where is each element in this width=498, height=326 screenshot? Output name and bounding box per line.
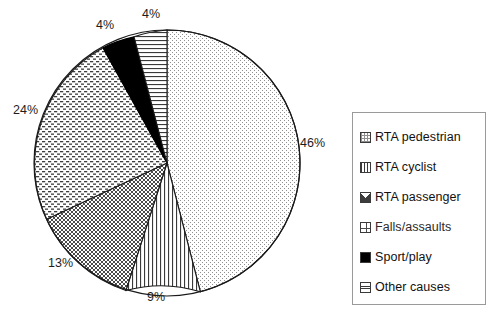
dotted-square-swatch bbox=[360, 132, 371, 143]
slice-label-falls-assaults: 13% bbox=[48, 256, 73, 270]
legend-label-falls-assaults: Falls/assaults bbox=[375, 220, 451, 234]
legend-label-rta-passenger: RTA passenger bbox=[375, 190, 461, 204]
solid-black-square-swatch bbox=[360, 252, 371, 263]
pie-slices bbox=[34, 30, 300, 296]
legend-label-sport-play: Sport/play bbox=[375, 250, 432, 264]
slice-label-other-causes: 4% bbox=[142, 7, 160, 21]
pie-chart-figure: 46% 9% 13% 24% 4% 4% RTA pedestrian RTA … bbox=[0, 0, 498, 326]
slice-label-rta-passenger: 24% bbox=[13, 103, 38, 117]
crosshatch-square-swatch bbox=[360, 222, 371, 233]
legend-item-sport-play[interactable]: Sport/play bbox=[353, 242, 485, 272]
legend-item-rta-passenger[interactable]: RTA passenger bbox=[353, 182, 485, 212]
chart-legend: RTA pedestrian RTA cyclist RTA passenger… bbox=[352, 112, 486, 305]
legend-label-rta-cyclist: RTA cyclist bbox=[375, 160, 436, 174]
legend-label-other-causes: Other causes bbox=[375, 280, 450, 294]
horizontal-lines-square-swatch bbox=[360, 282, 371, 293]
legend-item-falls-assaults[interactable]: Falls/assaults bbox=[353, 212, 485, 242]
legend-item-rta-pedestrian[interactable]: RTA pedestrian bbox=[353, 122, 485, 152]
legend-item-other-causes[interactable]: Other causes bbox=[353, 272, 485, 302]
slice-label-sport-play: 4% bbox=[96, 18, 114, 32]
dashed-rows-square-swatch bbox=[360, 192, 371, 203]
legend-label-rta-pedestrian: RTA pedestrian bbox=[375, 130, 461, 144]
vertical-lines-square-swatch bbox=[360, 162, 371, 173]
legend-item-rta-cyclist[interactable]: RTA cyclist bbox=[353, 152, 485, 182]
slice-label-rta-pedestrian: 46% bbox=[300, 136, 325, 150]
slice-label-rta-cyclist: 9% bbox=[147, 290, 165, 304]
